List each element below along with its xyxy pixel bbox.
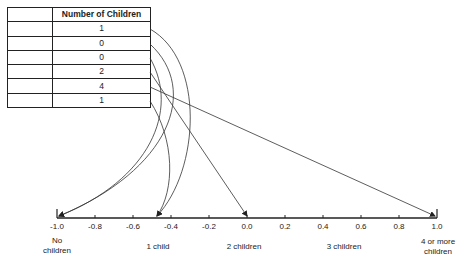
tick-label: 1.0 <box>422 222 452 231</box>
tick-label: 0.6 <box>346 222 376 231</box>
tick-label: -0.4 <box>156 222 186 231</box>
category-label-line2: children <box>27 246 87 256</box>
category-1-child: 1 child <box>128 242 188 252</box>
category-label-line1: 4 or more <box>408 237 456 247</box>
category-label-line1: 1 child <box>128 242 188 252</box>
arrow-row5-to-4-or-more <box>150 87 435 216</box>
category-3-children: 3 children <box>314 242 374 252</box>
category-4-or-more-children: 4 or more children <box>408 237 456 257</box>
category-label-line1: 3 children <box>314 242 374 252</box>
category-2-children: 2 children <box>214 242 274 252</box>
arrow-row2-to-no-children <box>59 44 173 216</box>
tick-label: -0.2 <box>194 222 224 231</box>
tick-label: -0.8 <box>80 222 110 231</box>
tick-label: -0.6 <box>118 222 148 231</box>
arrow-row3-to-no-children <box>59 58 161 216</box>
category-label-line1: No <box>27 236 87 246</box>
tick-label: 0.0 <box>232 222 262 231</box>
category-label-line2: children <box>408 247 456 257</box>
tick-label: 0.4 <box>308 222 338 231</box>
tick-label: 0.2 <box>270 222 300 231</box>
arrow-row6-to-1-child <box>150 101 170 216</box>
category-label-line1: 2 children <box>214 242 274 252</box>
tick-label: 0.8 <box>384 222 414 231</box>
category-no-children: No children <box>27 236 87 256</box>
tick-label: -1.0 <box>42 222 72 231</box>
